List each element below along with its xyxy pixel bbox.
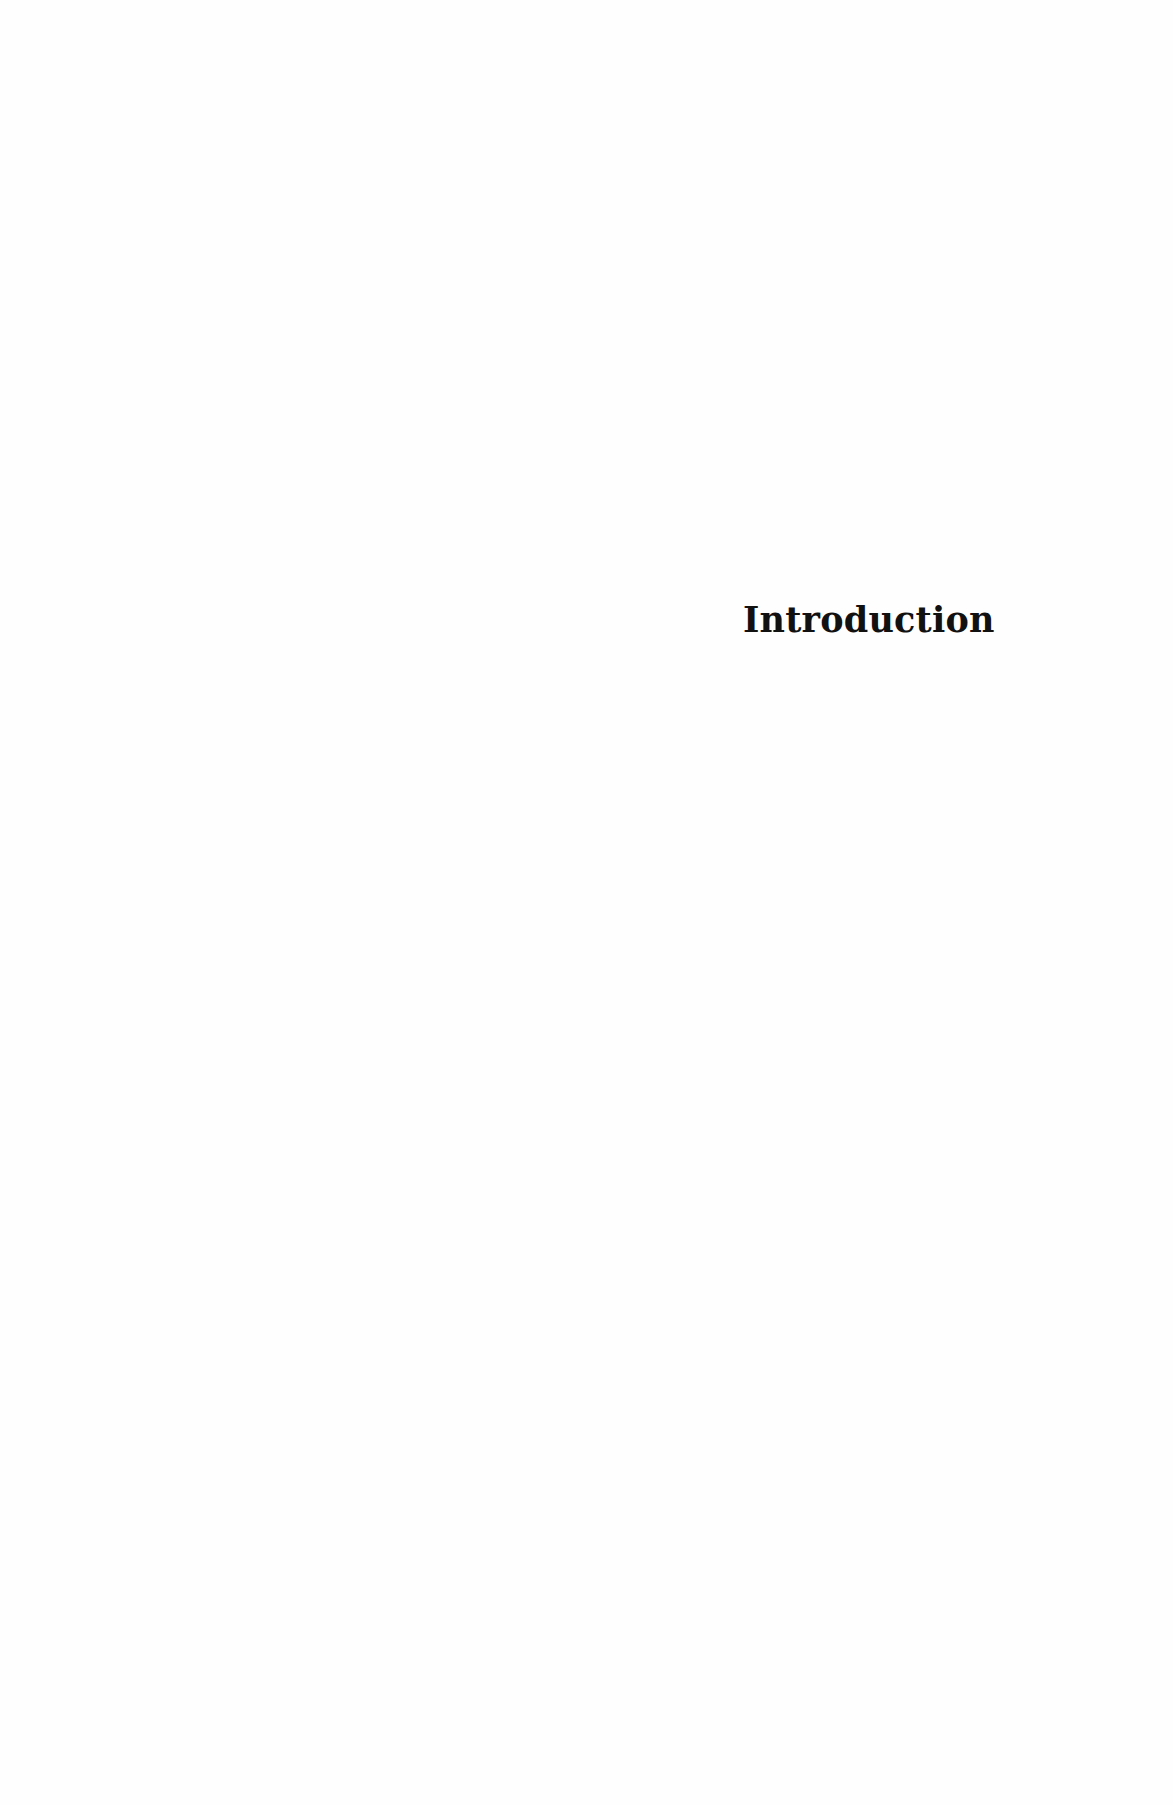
document-page: Introduction: [0, 0, 1173, 1805]
section-title: Introduction: [743, 596, 995, 644]
